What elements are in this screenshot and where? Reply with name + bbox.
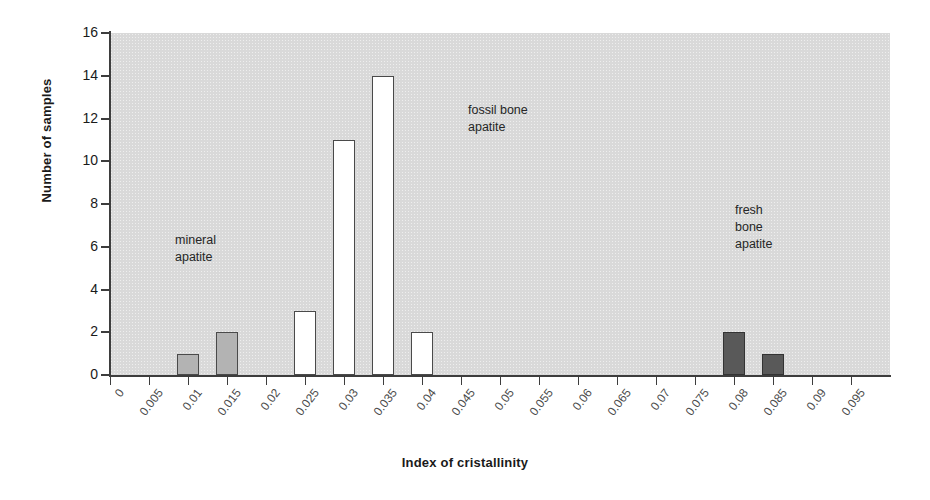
x-axis-tick-label: 0.01 bbox=[180, 386, 205, 413]
bar-fresh-0.08 bbox=[723, 332, 745, 375]
x-axis-title: Index of cristallinity bbox=[0, 455, 930, 470]
y-axis-tick bbox=[101, 374, 110, 376]
x-axis-tick bbox=[851, 377, 852, 385]
y-axis-tick bbox=[101, 203, 110, 205]
x-axis-tick-label: 0.055 bbox=[527, 386, 557, 418]
x-axis-tick-label: 0.06 bbox=[570, 386, 595, 413]
histogram-chart: Number of samples 0246810121416 00.0050.… bbox=[0, 0, 930, 500]
bar-fossil-0.03 bbox=[333, 140, 355, 375]
y-axis-tick-label: 4 bbox=[36, 281, 98, 297]
annotation-fresh-bone-apatite: fresh bone apatite bbox=[735, 202, 773, 253]
x-axis-tick-label: 0.03 bbox=[336, 386, 361, 413]
x-axis-tick-label: 0.08 bbox=[726, 386, 751, 413]
y-axis-tick bbox=[101, 32, 110, 34]
y-axis-tick-label: 10 bbox=[36, 152, 98, 168]
x-axis-tick-label: 0.07 bbox=[648, 386, 673, 413]
bar-fossil-0.04 bbox=[411, 332, 433, 375]
x-axis-tick bbox=[344, 377, 345, 385]
x-axis-tick bbox=[188, 377, 189, 385]
x-axis-tick-label: 0.04 bbox=[414, 386, 439, 413]
y-axis-tick bbox=[101, 246, 110, 248]
x-axis-tick-label: 0.065 bbox=[605, 386, 635, 418]
x-axis-tick bbox=[617, 377, 618, 385]
x-axis-tick bbox=[656, 377, 657, 385]
x-axis-tick-label: 0.02 bbox=[258, 386, 283, 413]
x-axis-tick bbox=[422, 377, 423, 385]
x-axis-tick bbox=[500, 377, 501, 385]
plot-area bbox=[110, 33, 890, 375]
x-axis-tick-label: 0.095 bbox=[839, 386, 869, 418]
bar-fossil-0.025 bbox=[294, 311, 316, 375]
x-axis-tick bbox=[227, 377, 228, 385]
y-axis-tick-label: 16 bbox=[36, 24, 98, 40]
x-axis-tick-label: 0.005 bbox=[137, 386, 167, 418]
y-axis-tick bbox=[101, 75, 110, 77]
x-axis-tick bbox=[305, 377, 306, 385]
x-axis-tick bbox=[773, 377, 774, 385]
y-axis-tick-label: 8 bbox=[36, 195, 98, 211]
x-axis-tick bbox=[461, 377, 462, 385]
x-axis-tick-label: 0.025 bbox=[293, 386, 323, 418]
x-axis-tick bbox=[812, 377, 813, 385]
y-axis-tick bbox=[101, 289, 110, 291]
y-axis-tick-label: 14 bbox=[36, 67, 98, 83]
x-axis-tick bbox=[149, 377, 150, 385]
x-axis-tick bbox=[695, 377, 696, 385]
x-axis-tick-label: 0.05 bbox=[492, 386, 517, 413]
bar-fresh-0.085 bbox=[762, 354, 784, 375]
y-axis-tick-label: 0 bbox=[36, 366, 98, 382]
x-axis-tick-label: 0.075 bbox=[683, 386, 713, 418]
x-axis-tick bbox=[110, 377, 111, 385]
x-axis-tick-label: 0.035 bbox=[371, 386, 401, 418]
x-axis-tick bbox=[383, 377, 384, 385]
annotation-fossil-bone-apatite: fossil bone apatite bbox=[468, 102, 528, 136]
x-axis-tick bbox=[578, 377, 579, 385]
bar-fossil-0.035 bbox=[372, 76, 394, 375]
y-axis-tick bbox=[101, 160, 110, 162]
x-axis-tick-label: 0.045 bbox=[449, 386, 479, 418]
bar-mineral-0.015 bbox=[216, 332, 238, 375]
x-axis-tick bbox=[539, 377, 540, 385]
y-axis-tick-label: 12 bbox=[36, 110, 98, 126]
x-axis-tick-label: 0.015 bbox=[215, 386, 245, 418]
x-axis-tick-label: 0 bbox=[112, 386, 127, 400]
bar-mineral-0.01 bbox=[177, 354, 199, 375]
x-axis-tick bbox=[734, 377, 735, 385]
x-axis-tick-label: 0.085 bbox=[761, 386, 791, 418]
y-axis-tick bbox=[101, 331, 110, 333]
x-axis-tick bbox=[266, 377, 267, 385]
y-axis-title: Number of samples bbox=[39, 31, 54, 251]
annotation-mineral-apatite: mineral apatite bbox=[175, 232, 216, 266]
y-axis-tick bbox=[101, 118, 110, 120]
x-axis-tick-label: 0.09 bbox=[804, 386, 829, 413]
y-axis-tick-label: 6 bbox=[36, 238, 98, 254]
y-axis-tick-label: 2 bbox=[36, 323, 98, 339]
